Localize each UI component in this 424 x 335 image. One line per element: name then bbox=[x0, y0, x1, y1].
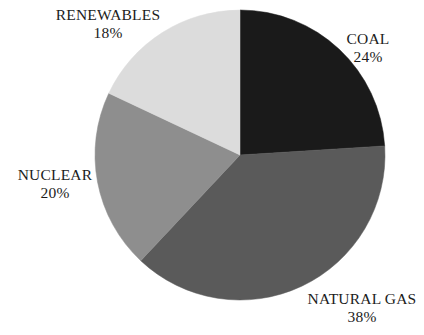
pie-label-nuclear: NUCLEAR 20% bbox=[2, 166, 108, 203]
pie-label-coal: COAL 24% bbox=[318, 30, 418, 67]
pie-chart-figure: RENEWABLES 18% COAL 24% NUCLEAR 20% NATU… bbox=[0, 0, 424, 335]
pie-label-renewables: RENEWABLES 18% bbox=[18, 6, 198, 43]
pie-label-nuclear-value: 20% bbox=[2, 184, 108, 202]
pie-label-natural-gas-name: NATURAL GAS bbox=[300, 290, 424, 308]
pie-label-renewables-name: RENEWABLES bbox=[18, 6, 198, 24]
pie-label-renewables-value: 18% bbox=[18, 24, 198, 42]
pie-label-coal-value: 24% bbox=[318, 48, 418, 66]
pie-label-coal-name: COAL bbox=[318, 30, 418, 48]
pie-label-natural-gas-value: 38% bbox=[300, 308, 424, 326]
pie-label-nuclear-name: NUCLEAR bbox=[2, 166, 108, 184]
pie-label-natural-gas: NATURAL GAS 38% bbox=[300, 290, 424, 327]
